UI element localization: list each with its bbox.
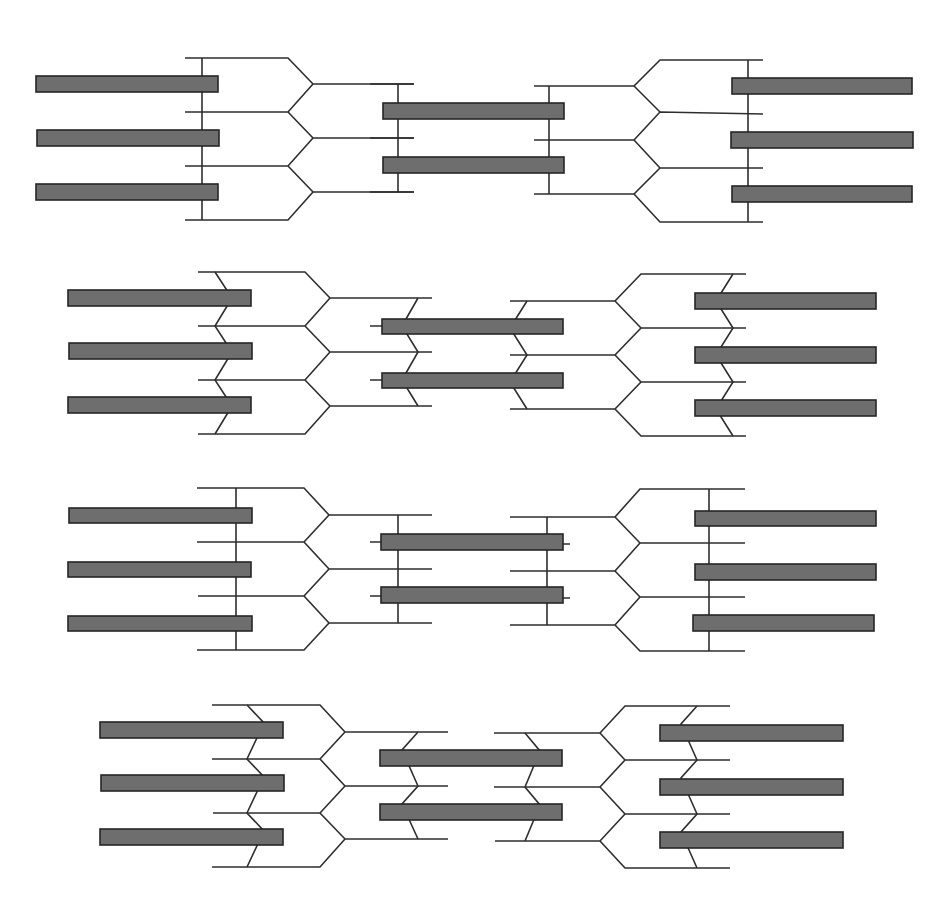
thick-filament-bar bbox=[695, 347, 876, 363]
thick-filament-bar bbox=[68, 290, 251, 306]
thick-filament-bar bbox=[695, 400, 876, 416]
thick-filaments bbox=[68, 508, 876, 631]
thick-filament-bar bbox=[732, 78, 912, 94]
thin-filament-line bbox=[185, 58, 414, 84]
thin-filaments-and-z-lines bbox=[212, 705, 730, 868]
thick-filament-bar bbox=[380, 750, 562, 766]
thick-filament-bar bbox=[695, 293, 876, 309]
thin-filament-line bbox=[600, 733, 625, 760]
thick-filament-bar bbox=[100, 829, 283, 845]
thick-filaments bbox=[100, 722, 843, 848]
thick-filament-bar bbox=[380, 804, 562, 820]
sarcomere-panel-4 bbox=[100, 705, 843, 868]
thick-filament-bar bbox=[100, 722, 283, 738]
thick-filament-bar bbox=[69, 508, 252, 523]
thick-filament-bar bbox=[660, 725, 843, 741]
thick-filament-bar bbox=[731, 132, 913, 148]
thick-filament-bar bbox=[695, 564, 876, 580]
thick-filament-bar bbox=[693, 615, 874, 631]
thin-filament-line bbox=[534, 112, 763, 140]
thick-filament-bar bbox=[68, 616, 252, 631]
thick-filament-bar bbox=[383, 157, 564, 173]
thin-filament-line bbox=[534, 60, 763, 86]
thin-filaments-and-z-lines bbox=[185, 58, 763, 222]
thick-filament-bar bbox=[732, 186, 912, 202]
thick-filament-bar bbox=[36, 184, 218, 200]
thick-filament-bar bbox=[660, 832, 843, 848]
thin-filament-line bbox=[634, 86, 660, 112]
thick-filaments bbox=[68, 290, 876, 416]
thick-filament-bar bbox=[383, 103, 564, 119]
thick-filament-bar bbox=[381, 587, 563, 603]
sarcomere-panel-2 bbox=[68, 272, 876, 436]
thick-filament-bar bbox=[36, 76, 218, 92]
thick-filament-bar bbox=[37, 130, 219, 146]
thick-filament-bar bbox=[68, 397, 251, 413]
thick-filaments bbox=[36, 76, 913, 202]
thin-filaments-and-z-lines bbox=[197, 488, 745, 651]
thick-filament-bar bbox=[382, 373, 563, 388]
thin-filaments-and-z-lines bbox=[198, 272, 746, 436]
thin-filament-line bbox=[615, 517, 640, 543]
sarcomere-panel-1 bbox=[36, 58, 913, 222]
thin-filament-line bbox=[615, 301, 641, 328]
thick-filament-bar bbox=[382, 319, 563, 334]
sarcomere-diagram bbox=[0, 0, 946, 920]
thick-filament-bar bbox=[695, 511, 876, 526]
thick-filament-bar bbox=[381, 534, 563, 550]
thick-filament-bar bbox=[101, 775, 284, 791]
sarcomere-panel-3 bbox=[68, 488, 876, 651]
thick-filament-bar bbox=[68, 562, 251, 577]
thick-filament-bar bbox=[69, 343, 252, 359]
thick-filament-bar bbox=[660, 779, 843, 795]
